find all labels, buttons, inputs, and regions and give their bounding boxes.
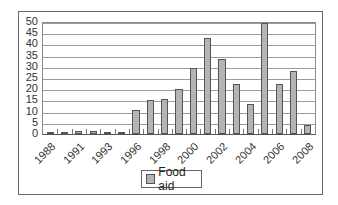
y-tick-label: 50 — [16, 16, 38, 27]
bar — [175, 89, 182, 134]
bar — [290, 71, 297, 134]
x-tick-mark — [115, 129, 116, 134]
plot-area — [42, 22, 316, 135]
bar — [147, 100, 154, 134]
x-tick-mark — [129, 129, 130, 134]
x-tick-mark — [72, 129, 73, 134]
x-tick-mark — [215, 129, 216, 134]
bar — [261, 23, 268, 134]
bar — [247, 104, 254, 134]
x-tick-mark — [229, 129, 230, 134]
gridline — [43, 45, 315, 46]
x-tick-mark — [186, 129, 187, 134]
gridline — [43, 68, 315, 69]
legend: Food aid — [141, 170, 202, 188]
x-tick-mark — [86, 129, 87, 134]
bar — [161, 99, 168, 134]
bar — [47, 132, 54, 134]
bar — [132, 110, 139, 134]
x-tick-mark — [272, 129, 273, 134]
bar — [304, 125, 311, 134]
gridline — [43, 34, 315, 35]
y-tick-label: 10 — [16, 106, 38, 117]
x-tick-mark — [258, 129, 259, 134]
x-tick-mark — [301, 129, 302, 134]
x-tick-mark — [158, 129, 159, 134]
bar — [218, 59, 225, 134]
gridline — [43, 79, 315, 80]
bar — [233, 84, 240, 134]
legend-label: Food aid — [158, 165, 201, 193]
bar — [90, 131, 97, 134]
bar — [190, 68, 197, 134]
y-tick-label: 30 — [16, 61, 38, 72]
x-tick-mark — [143, 129, 144, 134]
y-tick-label: 35 — [16, 50, 38, 61]
x-tick-mark — [243, 129, 244, 134]
x-tick-mark — [172, 129, 173, 134]
y-tick-label: 45 — [16, 27, 38, 38]
y-tick-label: 0 — [16, 128, 38, 139]
y-tick-label: 40 — [16, 38, 38, 49]
bar — [61, 132, 68, 134]
gridline — [43, 23, 315, 24]
legend-swatch-icon — [146, 174, 155, 184]
y-tick-label: 5 — [16, 117, 38, 128]
bar — [104, 132, 111, 134]
x-tick-mark — [286, 129, 287, 134]
bar — [276, 84, 283, 134]
bar — [204, 38, 211, 134]
x-tick-mark — [100, 129, 101, 134]
bar — [75, 131, 82, 134]
gridline — [43, 57, 315, 58]
bar — [118, 132, 125, 134]
x-tick-mark — [57, 129, 58, 134]
y-tick-label: 25 — [16, 72, 38, 83]
y-tick-label: 15 — [16, 94, 38, 105]
x-tick-mark — [200, 129, 201, 134]
y-tick-label: 20 — [16, 83, 38, 94]
